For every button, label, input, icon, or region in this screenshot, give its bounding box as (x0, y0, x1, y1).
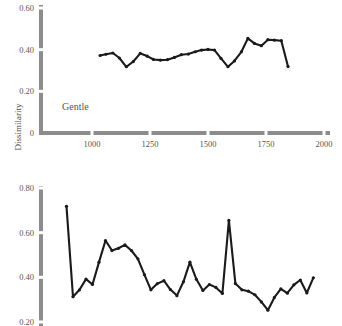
top-data-point (226, 65, 229, 68)
top-data-point (152, 58, 155, 61)
top-data-point (246, 37, 249, 40)
bottom-data-point (299, 278, 302, 281)
top-data-point (187, 52, 190, 55)
top-data-point (118, 56, 121, 59)
top-data-point (240, 50, 243, 53)
top-data-point (104, 53, 107, 56)
top-panel-axes (38, 5, 330, 136)
bottom-data-point (175, 294, 178, 297)
bottom-data-point (273, 296, 276, 299)
bottom-data-point (312, 276, 315, 279)
top-data-point (266, 38, 269, 41)
top-x-tick-label: 1000 (84, 139, 101, 149)
bottom-data-point (123, 243, 126, 246)
bottom-series-line (67, 206, 314, 310)
top-data-point (159, 58, 162, 61)
bottom-data-point (227, 219, 230, 222)
bottom-data-point (136, 257, 139, 260)
top-data-point (194, 50, 197, 53)
panel-label-gentle: Gentle (62, 101, 89, 112)
bottom-data-point (78, 288, 81, 291)
top-panel-series (99, 37, 290, 69)
top-data-point (253, 42, 256, 45)
bottom-data-point (234, 282, 237, 285)
top-data-point (206, 48, 209, 51)
bottom-data-point (71, 295, 74, 298)
top-data-point (273, 38, 276, 41)
bottom-data-point (143, 273, 146, 276)
bottom-data-point (208, 283, 211, 286)
bottom-data-point (97, 261, 100, 264)
top-data-point (280, 39, 283, 42)
top-data-point (200, 48, 203, 51)
bottom-data-point (117, 247, 120, 250)
top-data-point (213, 48, 216, 51)
bottom-data-point (182, 280, 185, 283)
bottom-data-point (214, 286, 217, 289)
top-data-point (166, 58, 169, 61)
bottom-panel-tick-labels: 0.200.400.600.80 (19, 183, 34, 326)
top-data-point (173, 56, 176, 59)
bottom-data-point (201, 289, 204, 292)
top-data-point (99, 54, 102, 57)
top-x-tick-label: 1250 (142, 139, 159, 149)
bottom-panel-series (65, 205, 315, 312)
bottom-data-point (260, 300, 263, 303)
top-data-point (219, 57, 222, 60)
bottom-data-point (91, 283, 94, 286)
bottom-data-point (149, 288, 152, 291)
bottom-panel-chart: 0.200.400.600.80 (0, 170, 342, 326)
top-data-point (146, 55, 149, 58)
top-data-point (260, 44, 263, 47)
top-x-tick-label: 1750 (258, 139, 275, 149)
top-data-point (180, 53, 183, 56)
top-panel-tick-labels: 00.200.400.6010001250150017502000 (19, 3, 332, 149)
bottom-data-point (162, 279, 165, 282)
top-data-point (286, 65, 289, 68)
bottom-data-point (305, 291, 308, 294)
bottom-data-point (169, 288, 172, 291)
top-data-point (233, 59, 236, 62)
bottom-data-point (156, 282, 159, 285)
bottom-data-point (221, 292, 224, 295)
bottom-data-point (240, 288, 243, 291)
bottom-data-point (84, 278, 87, 281)
top-data-point (125, 65, 128, 68)
bottom-y-tick-label: 0.40 (19, 272, 34, 282)
figure-root: Dissimilarity 00.200.400.601000125015001… (0, 0, 342, 326)
bottom-data-point (110, 249, 113, 252)
bottom-y-tick-label: 0.20 (19, 317, 34, 326)
bottom-data-point (65, 205, 68, 208)
bottom-panel-axes (38, 186, 44, 326)
bottom-data-point (253, 293, 256, 296)
top-panel-chart: 00.200.400.6010001250150017502000 Gentle (0, 0, 342, 170)
top-y-tick-label: 0.40 (19, 45, 34, 55)
bottom-y-tick-label: 0.80 (19, 183, 34, 193)
bottom-data-point (195, 278, 198, 281)
top-data-point (111, 51, 114, 54)
bottom-data-point (247, 290, 250, 293)
top-data-point (132, 60, 135, 63)
bottom-data-point (104, 239, 107, 242)
bottom-data-point (188, 261, 191, 264)
bottom-data-point (279, 287, 282, 290)
top-data-point (139, 52, 142, 55)
bottom-data-point (286, 292, 289, 295)
bottom-data-point (292, 283, 295, 286)
top-x-tick-label: 1500 (200, 139, 217, 149)
bottom-data-point (266, 309, 269, 312)
top-y-tick-label: 0.20 (19, 86, 34, 96)
top-y-tick-label: 0 (30, 128, 34, 138)
bottom-y-tick-label: 0.60 (19, 228, 34, 238)
top-x-tick-label: 2000 (316, 139, 333, 149)
bottom-data-point (130, 249, 133, 252)
top-y-tick-label: 0.60 (19, 3, 34, 13)
